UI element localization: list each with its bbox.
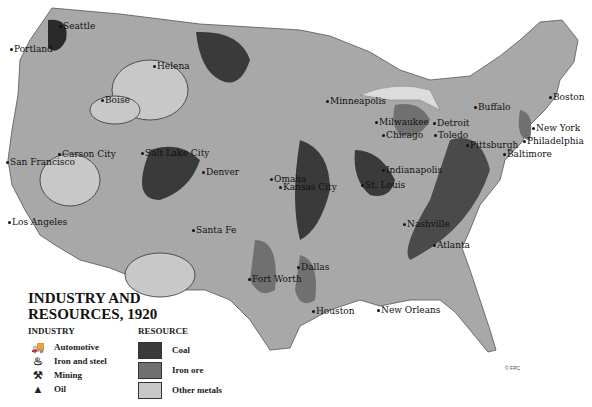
- city-dot: [466, 144, 469, 147]
- city-label: New York: [536, 124, 580, 133]
- city-label: Dallas: [301, 263, 329, 272]
- city-dot: [474, 106, 477, 109]
- city-label: Baltimore: [507, 150, 552, 159]
- city-dot: [375, 121, 378, 124]
- city-dot: [10, 48, 13, 51]
- city-dot: [202, 171, 205, 174]
- city-dot: [403, 223, 406, 226]
- city-dot: [549, 96, 552, 99]
- legend: INDUSTRY AND RESOURCES, 1920 INDUSTRY 🚚A…: [28, 290, 268, 400]
- city-dot: [279, 186, 282, 189]
- city-dot: [101, 99, 104, 102]
- city-dot: [433, 122, 436, 125]
- city-dot: [6, 161, 9, 164]
- legend-iron-ore: Iron ore: [138, 360, 248, 380]
- automotive-icon: 🚚: [28, 341, 48, 354]
- legend-iron-steel: ♨Iron and steel: [28, 354, 138, 368]
- city-label: Minneapolis: [330, 97, 386, 106]
- city-label: Philadelphia: [527, 137, 584, 146]
- city-dot: [361, 184, 364, 187]
- city-label: St. Louis: [365, 181, 405, 190]
- city-label: Buffalo: [478, 103, 510, 112]
- city-label: Helena: [157, 62, 190, 71]
- industry-heading: INDUSTRY: [28, 326, 138, 336]
- legend-title-line1: INDUSTRY AND: [28, 290, 268, 306]
- city-label: Boise: [105, 96, 130, 105]
- city-label: Portland: [14, 45, 53, 54]
- legend-other-metals: Other metals: [138, 380, 248, 400]
- city-dot: [377, 309, 380, 312]
- city-label: Toledo: [438, 131, 468, 140]
- city-dot: [433, 244, 436, 247]
- iron-ore-swatch: [138, 362, 162, 379]
- city-dot: [297, 266, 300, 269]
- city-dot: [532, 127, 535, 130]
- city-dot: [382, 134, 385, 137]
- city-label: Kansas City: [283, 183, 337, 192]
- city-label: Detroit: [437, 119, 469, 128]
- city-dot: [58, 153, 61, 156]
- city-label: Houston: [316, 307, 355, 316]
- city-dot: [141, 152, 144, 155]
- legend-mining: ⚒Mining: [28, 368, 138, 382]
- resource-heading: RESOURCE: [138, 326, 248, 336]
- city-label: Indianapolis: [386, 166, 442, 175]
- legend-title-line2: RESOURCES, 1920: [28, 306, 268, 322]
- resource-legend: RESOURCE Coal Iron ore Other metals: [138, 326, 248, 400]
- city-dot: [59, 25, 62, 28]
- city-dot: [312, 310, 315, 313]
- city-label: Atlanta: [437, 241, 470, 250]
- city-label: Nashville: [407, 220, 450, 229]
- city-dot: [270, 178, 273, 181]
- city-label: Fort Worth: [252, 275, 302, 284]
- city-label: New Orleans: [381, 306, 440, 315]
- city-dot: [326, 100, 329, 103]
- city-dot: [8, 221, 11, 224]
- copyright: © FPC: [505, 365, 520, 371]
- city-dot: [248, 278, 251, 281]
- legend-automotive: 🚚Automotive: [28, 340, 138, 354]
- mining-icon: ⚒: [28, 369, 48, 382]
- industry-legend: INDUSTRY 🚚Automotive ♨Iron and steel ⚒Mi…: [28, 326, 138, 400]
- legend-coal: Coal: [138, 340, 248, 360]
- city-label: Santa Fe: [196, 226, 236, 235]
- oil-derrick-icon: ▲: [28, 383, 48, 395]
- city-dot: [153, 65, 156, 68]
- city-label: Chicago: [386, 131, 423, 140]
- city-dot: [434, 134, 437, 137]
- city-label: San Francisco: [10, 158, 75, 167]
- city-label: Milwaukee: [379, 118, 429, 127]
- city-label: Salt Lake City: [145, 149, 209, 158]
- city-label: Seattle: [63, 22, 95, 31]
- city-dot: [503, 153, 506, 156]
- coal-swatch: [138, 342, 162, 359]
- iron-steel-icon: ♨: [28, 355, 48, 368]
- other-metals-swatch: [138, 382, 162, 399]
- city-label: Los Angeles: [12, 218, 67, 227]
- city-dot: [192, 229, 195, 232]
- city-dot: [382, 169, 385, 172]
- city-dot: [523, 140, 526, 143]
- city-label: Denver: [206, 168, 239, 177]
- legend-oil: ▲Oil: [28, 382, 138, 396]
- city-label: Boston: [553, 93, 584, 102]
